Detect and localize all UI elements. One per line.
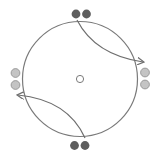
particle-group-right (141, 68, 150, 89)
particle-dark (72, 10, 81, 19)
particle-dark (82, 10, 91, 19)
arrow-bottom-to-left (18, 95, 85, 138)
ring-diagram (0, 0, 155, 163)
particle-group-top (72, 10, 91, 19)
particle-dark (70, 141, 79, 150)
particle-light (11, 69, 20, 78)
center-marker (76, 75, 83, 82)
particle-light (11, 81, 20, 90)
particle-group-bottom (70, 141, 89, 150)
particle-group-left (11, 69, 20, 90)
particle-light (141, 68, 150, 77)
particle-light (141, 80, 150, 89)
particle-dark (81, 141, 90, 150)
